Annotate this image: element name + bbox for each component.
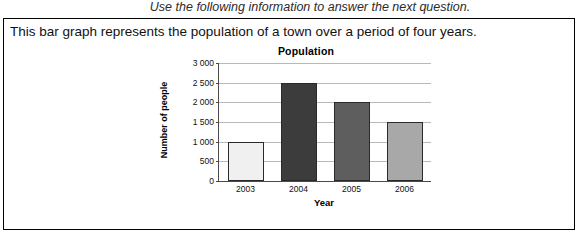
bar-chart: Population Number of people 05001 0001 5… bbox=[156, 45, 456, 225]
x-tick-label: 2003 bbox=[223, 184, 269, 194]
worksheet-page: Use the following information to answer … bbox=[0, 0, 582, 238]
x-tick-label: 2005 bbox=[329, 184, 375, 194]
bar-series bbox=[219, 63, 431, 181]
plot-area: 05001 0001 5002 0002 5003 000 2003200420… bbox=[218, 63, 431, 182]
bar bbox=[387, 122, 423, 181]
bar bbox=[334, 102, 370, 181]
y-tick-label: 500 bbox=[200, 156, 214, 166]
y-tick-mark bbox=[216, 181, 219, 182]
question-stem: This bar graph represents the population… bbox=[10, 24, 477, 39]
question-box: This bar graph represents the population… bbox=[3, 18, 575, 230]
instruction-text: Use the following information to answer … bbox=[112, 0, 470, 14]
y-tick-label: 0 bbox=[209, 176, 214, 186]
y-tick-label: 2 500 bbox=[193, 78, 214, 88]
y-tick-label: 1 000 bbox=[193, 137, 214, 147]
chart-title: Population bbox=[156, 45, 456, 57]
instruction-line: Use the following information to answer … bbox=[0, 0, 582, 18]
y-axis-label: Number of people bbox=[159, 70, 173, 170]
x-axis-label: Year bbox=[218, 197, 430, 208]
bar bbox=[281, 83, 317, 181]
x-tick-label: 2004 bbox=[276, 184, 322, 194]
y-tick-label: 1 500 bbox=[193, 117, 214, 127]
y-tick-label: 2 000 bbox=[193, 97, 214, 107]
bar bbox=[228, 142, 264, 181]
x-tick-label: 2006 bbox=[382, 184, 428, 194]
y-tick-label: 3 000 bbox=[193, 58, 214, 68]
